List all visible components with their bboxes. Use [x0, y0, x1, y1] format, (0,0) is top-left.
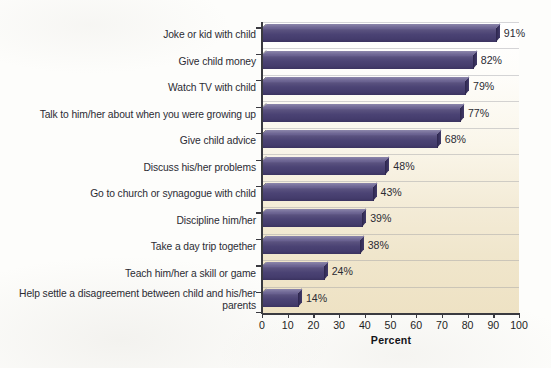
bar-front-face: [262, 55, 474, 69]
bar-value-label: 68%: [445, 133, 466, 145]
gridline: [262, 101, 519, 102]
bar-front-face: [262, 187, 374, 201]
bar-front-face: [262, 266, 325, 280]
category-label: Joke or kid with child: [8, 29, 256, 41]
bar: [262, 108, 464, 122]
y-axis-tick: [256, 54, 262, 55]
bar-front-face: [262, 293, 299, 307]
bar-front-face: [262, 81, 466, 95]
category-label: Discipline him/her: [8, 215, 256, 227]
x-axis-tick-label: 10: [275, 319, 301, 331]
bar: [262, 240, 364, 254]
bar-value-label: 48%: [393, 160, 414, 172]
y-axis-tick: [256, 212, 262, 213]
x-axis-tick-label: 80: [455, 319, 481, 331]
y-axis-line: [261, 22, 263, 314]
bar: [262, 293, 302, 307]
y-axis-tick: [256, 186, 262, 187]
bar: [262, 55, 477, 69]
category-label: Go to church or synagogue with child: [8, 188, 256, 200]
y-axis-tick: [256, 239, 262, 240]
x-axis-tick: [262, 313, 263, 318]
x-axis-tick: [416, 313, 417, 318]
x-axis-tick-label: 70: [429, 319, 455, 331]
bar-value-label: 14%: [306, 292, 327, 304]
x-axis-tick-label: 0: [249, 319, 275, 331]
bar: [262, 28, 500, 42]
x-axis-tick: [391, 313, 392, 318]
bar: [262, 134, 441, 148]
x-axis-tick-label: 40: [352, 319, 378, 331]
y-axis-tick: [256, 27, 262, 28]
x-axis-tick: [288, 313, 289, 318]
x-axis-tick: [339, 313, 340, 318]
bar-value-label: 39%: [370, 212, 391, 224]
bar-value-label: 77%: [468, 107, 489, 119]
x-axis-tick-label: 60: [403, 319, 429, 331]
bar-front-face: [262, 28, 497, 42]
x-axis-tick-label: 30: [326, 319, 352, 331]
bar-value-label: 43%: [381, 186, 402, 198]
category-label: Discuss his/her problems: [8, 162, 256, 174]
gridline: [262, 181, 519, 182]
y-axis-tick: [256, 160, 262, 161]
x-axis-tick-label: 20: [300, 319, 326, 331]
gridline: [262, 234, 519, 235]
bar-value-label: 38%: [368, 239, 389, 251]
x-axis-tick: [493, 313, 494, 318]
bar: [262, 81, 469, 95]
gridline: [262, 154, 519, 155]
x-axis-tick: [365, 313, 366, 318]
bar: [262, 213, 366, 227]
category-label: Talk to him/her about when you were grow…: [8, 109, 256, 121]
category-label: Give child money: [8, 56, 256, 68]
x-axis-tick-label: 50: [378, 319, 404, 331]
category-label: Help settle a disagreement between child…: [8, 288, 256, 311]
bar-value-label: 24%: [332, 265, 353, 277]
x-axis-title: Percent: [262, 334, 520, 346]
category-axis-labels: Joke or kid with childGive child moneyWa…: [8, 22, 256, 310]
category-label: Watch TV with child: [8, 82, 256, 94]
bar-front-face: [262, 161, 386, 175]
y-axis-tick: [256, 312, 262, 313]
bar-front-face: [262, 108, 461, 122]
y-axis-tick: [256, 292, 262, 293]
x-axis-tick: [313, 313, 314, 318]
gridline: [262, 128, 519, 129]
x-axis-tick: [468, 313, 469, 318]
y-axis-tick: [256, 107, 262, 108]
bar: [262, 266, 328, 280]
bar: [262, 161, 389, 175]
horizontal-bar-chart: Joke or kid with childGive child moneyWa…: [0, 0, 551, 368]
gridline: [262, 287, 519, 288]
x-axis-tick-label: 90: [480, 319, 506, 331]
gridline: [262, 22, 519, 23]
category-label: Give child advice: [8, 135, 256, 147]
bar-front-face: [262, 240, 361, 254]
x-axis-tick: [519, 313, 520, 318]
x-axis-tick-label: 100: [506, 319, 532, 331]
x-axis-tick: [442, 313, 443, 318]
gridline: [262, 260, 519, 261]
bar-value-label: 79%: [473, 80, 494, 92]
bar: [262, 187, 377, 201]
category-label: Teach him/her a skill or game: [8, 268, 256, 280]
bar-value-label: 91%: [504, 27, 525, 39]
category-label: Take a day trip together: [8, 241, 256, 253]
y-axis-tick: [256, 265, 262, 266]
y-axis-tick: [256, 80, 262, 81]
y-axis-tick: [256, 133, 262, 134]
bar-front-face: [262, 134, 438, 148]
gridline: [262, 48, 519, 49]
bar-value-label: 82%: [481, 54, 502, 66]
gridline: [262, 75, 519, 76]
bar-front-face: [262, 213, 363, 227]
